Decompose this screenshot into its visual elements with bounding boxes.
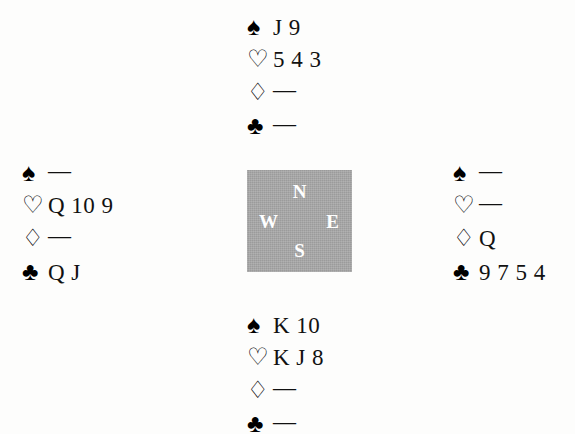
compass-box: N W E S [247,170,352,272]
heart-icon: ♡ [453,193,479,217]
hand-east-clubs-row: ♣ 9 7 5 4 [453,259,546,292]
hand-west-diamonds-row: ♢ — [22,226,114,259]
hand-west-clubs-ranks: Q J [48,261,81,284]
hand-north-hearts-row: ♡ 5 4 3 [247,47,322,80]
hand-west-diamonds-ranks: — [48,224,72,247]
hand-west-spades-row: ♠ — [22,160,114,193]
compass-label-south: S [294,241,305,260]
spade-icon: ♠ [22,160,48,185]
hand-north-hearts-ranks: 5 4 3 [273,48,322,71]
compass-label-east: E [326,212,339,231]
bridge-hand-diagram: ♠ J 9 ♡ 5 4 3 ♢ — ♣ — ♠ — ♡ Q 10 9 ♢ — [0,0,575,434]
hand-south: ♠ K 10 ♡ K J 8 ♢ — ♣ — [247,312,324,434]
hand-south-diamonds-row: ♢ — [247,378,324,411]
compass-label-north: N [293,182,307,201]
hand-north: ♠ J 9 ♡ 5 4 3 ♢ — ♣ — [247,14,322,146]
hand-east-diamonds-row: ♢ Q [453,226,546,259]
hand-west-clubs-row: ♣ Q J [22,259,114,292]
heart-icon: ♡ [247,47,273,71]
compass-label-west: W [259,212,278,231]
spade-icon: ♠ [247,14,273,39]
heart-icon: ♡ [22,193,48,217]
hand-south-hearts-ranks: K J 8 [273,346,324,369]
hand-north-diamonds-ranks: — [273,78,297,101]
club-icon: ♣ [247,113,273,138]
spade-icon: ♠ [453,160,479,185]
hand-south-diamonds-ranks: — [273,376,297,399]
hand-north-clubs-row: ♣ — [247,113,322,146]
club-icon: ♣ [22,259,48,284]
hand-east-hearts-ranks: — [479,191,503,214]
diamond-icon: ♢ [22,226,48,250]
hand-south-clubs-row: ♣ — [247,411,324,434]
hand-east-clubs-ranks: 9 7 5 4 [479,261,546,284]
hand-north-spades-row: ♠ J 9 [247,14,322,47]
hand-west: ♠ — ♡ Q 10 9 ♢ — ♣ Q J [22,160,114,292]
hand-south-spades-ranks: K 10 [273,314,320,337]
club-icon: ♣ [247,411,273,434]
heart-icon: ♡ [247,345,273,369]
diamond-icon: ♢ [247,378,273,402]
spade-icon: ♠ [247,312,273,337]
hand-south-spades-row: ♠ K 10 [247,312,324,345]
hand-east: ♠ — ♡ — ♢ Q ♣ 9 7 5 4 [453,160,546,292]
hand-east-spades-ranks: — [479,159,503,182]
hand-south-clubs-ranks: — [273,410,297,433]
diamond-icon: ♢ [453,226,479,250]
hand-east-hearts-row: ♡ — [453,193,546,226]
hand-west-hearts-ranks: Q 10 9 [48,194,114,217]
hand-west-spades-ranks: — [48,159,72,182]
hand-east-spades-row: ♠ — [453,160,546,193]
hand-south-hearts-row: ♡ K J 8 [247,345,324,378]
hand-east-diamonds-ranks: Q [479,227,496,250]
hand-north-clubs-ranks: — [273,112,297,135]
hand-north-diamonds-row: ♢ — [247,80,322,113]
hand-west-hearts-row: ♡ Q 10 9 [22,193,114,226]
club-icon: ♣ [453,259,479,284]
hand-north-spades-ranks: J 9 [273,16,301,39]
diamond-icon: ♢ [247,80,273,104]
